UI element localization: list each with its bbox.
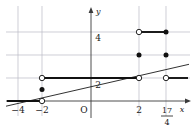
- x-tick-label-minus2: −2: [35, 105, 48, 115]
- fraction-numerator: 17: [162, 106, 172, 115]
- open-point-xm2-y2: [39, 75, 44, 80]
- closed-point-x17over4-y3: [164, 53, 169, 58]
- x-tick-label-minus4: −4: [11, 105, 25, 115]
- plot-canvas: y x O −4 −2 2 17 4 2 4: [0, 0, 194, 132]
- open-endpoint-markers: [39, 29, 168, 103]
- open-point-x2-y4: [136, 29, 141, 34]
- open-point-x17over4-y2: [163, 75, 168, 80]
- y-tick-label-4: 4: [95, 33, 101, 43]
- x-axis-label: x: [180, 105, 185, 114]
- x-tick-label-fraction-17-over-4: 17 4: [161, 106, 173, 127]
- x-tick-label-2: 2: [136, 105, 142, 115]
- closed-point-x2-y3: [137, 53, 142, 58]
- open-point-x2-y2: [136, 75, 141, 80]
- y-axis-arrowhead: [89, 7, 94, 13]
- closed-point-xm2-y1: [40, 87, 45, 92]
- open-point-xm2-y0: [39, 98, 44, 103]
- closed-point-x17over4-y4: [164, 30, 169, 35]
- x-axis-arrowhead: [185, 99, 191, 104]
- closed-endpoint-markers: [40, 30, 169, 93]
- origin-label: O: [80, 105, 87, 115]
- graph-figure: y x O −4 −2 2 17 4 2 4: [0, 0, 194, 132]
- y-tick-label-2: 2: [95, 80, 101, 90]
- y-axis-label: y: [95, 7, 101, 16]
- fraction-denominator: 4: [164, 118, 169, 127]
